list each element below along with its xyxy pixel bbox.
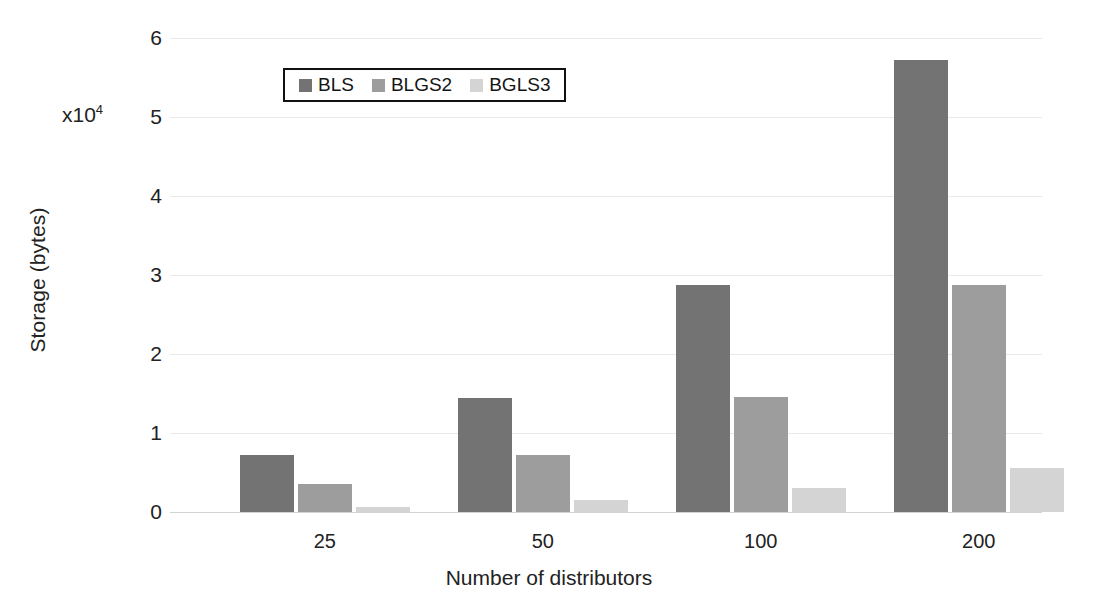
bar-bls-50 — [458, 398, 512, 512]
legend-label: BLS — [318, 74, 354, 96]
legend: BLSBLGS2BGLS3 — [283, 68, 566, 102]
x-axis-tick-label: 200 — [962, 530, 995, 553]
bar-blgs2-200 — [952, 285, 1006, 512]
bar-blgs2-100 — [734, 397, 788, 512]
plot-area — [170, 38, 1042, 512]
x-axis-tick-label: 100 — [744, 530, 777, 553]
legend-label: BGLS3 — [489, 74, 550, 96]
bar-bls-200 — [894, 60, 948, 512]
y-axis-tick-label: 4 — [138, 184, 162, 208]
bar-bgls3-100 — [792, 488, 846, 512]
bar-blgs2-25 — [298, 484, 352, 512]
legend-item-blgs2: BLGS2 — [372, 74, 452, 96]
gridline — [170, 38, 1042, 39]
gridline — [170, 512, 1042, 513]
legend-label: BLGS2 — [391, 74, 452, 96]
x-axis-tick-label: 50 — [532, 530, 554, 553]
bar-bls-25 — [240, 455, 294, 512]
legend-swatch-icon — [470, 79, 483, 92]
x-axis-title: Number of distributors — [0, 566, 1098, 590]
bar-blgs2-50 — [516, 455, 570, 512]
bar-bgls3-50 — [574, 500, 628, 512]
bar-bgls3-25 — [356, 507, 410, 512]
y-axis-multiplier: x104 — [62, 103, 103, 127]
y-axis-tick-label: 6 — [138, 26, 162, 50]
legend-swatch-icon — [299, 79, 312, 92]
y-axis-tick-label: 5 — [138, 105, 162, 129]
bar-bgls3-200 — [1010, 468, 1064, 512]
y-axis-tick-label: 2 — [138, 342, 162, 366]
y-axis-tick-label: 0 — [138, 500, 162, 524]
legend-swatch-icon — [372, 79, 385, 92]
bar-bls-100 — [676, 285, 730, 512]
y-axis-multiplier-exponent: 4 — [96, 102, 103, 117]
legend-item-bgls3: BGLS3 — [470, 74, 550, 96]
legend-item-bls: BLS — [299, 74, 354, 96]
x-axis-tick-label: 25 — [314, 530, 336, 553]
y-axis-title: Storage (bytes) — [26, 180, 50, 380]
bar-chart: Storage (bytes) x104 0123456 2550100200 … — [0, 0, 1098, 608]
y-axis-multiplier-base: x10 — [62, 103, 96, 126]
y-axis-tick-label: 3 — [138, 263, 162, 287]
y-axis-tick-label: 1 — [138, 421, 162, 445]
